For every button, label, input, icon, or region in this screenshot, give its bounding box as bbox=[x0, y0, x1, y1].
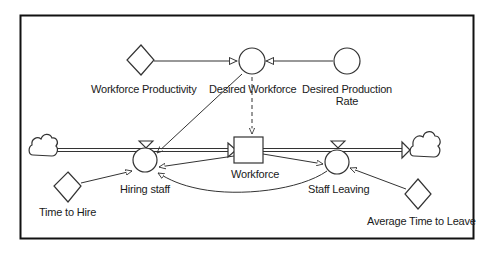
link-workforce-to-leaving bbox=[263, 154, 323, 164]
workforce-label: Workforce bbox=[231, 168, 279, 180]
hiring-valve-icon bbox=[139, 141, 153, 148]
time-to-hire-label: Time to Hire bbox=[39, 206, 96, 218]
workforce-productivity-constant[interactable] bbox=[127, 45, 154, 75]
link-workforce-to-hiring bbox=[159, 156, 234, 167]
hiring-staff-label: Hiring staff bbox=[120, 183, 170, 195]
staff-leaving-label: Staff Leaving bbox=[308, 183, 369, 195]
average-time-to-leave-constant[interactable] bbox=[405, 179, 431, 209]
workforce-productivity-label: Workforce Productivity bbox=[91, 83, 196, 95]
sink-cloud-icon bbox=[410, 132, 440, 157]
leaving-valve-icon bbox=[331, 141, 345, 148]
desired-workforce-aux[interactable] bbox=[239, 48, 265, 74]
link-time-to-hire bbox=[81, 171, 132, 183]
hiring-staff-flow[interactable] bbox=[133, 148, 157, 172]
desired-production-rate-line1: Desired Production bbox=[302, 83, 392, 95]
outflow-arrowhead bbox=[402, 142, 410, 158]
source-cloud-icon bbox=[29, 134, 57, 156]
workforce-stock[interactable] bbox=[234, 137, 263, 163]
average-time-to-leave-label: Average Time to Leave bbox=[367, 215, 476, 227]
desired-production-rate-line2: Rate bbox=[302, 95, 392, 107]
desired-production-rate-label: Desired Production Rate bbox=[302, 83, 392, 107]
time-to-hire-constant[interactable] bbox=[54, 172, 81, 202]
staff-leaving-flow[interactable] bbox=[325, 150, 349, 174]
desired-workforce-label: Desired Workforce bbox=[209, 83, 296, 95]
desired-production-rate-aux[interactable] bbox=[334, 48, 360, 74]
